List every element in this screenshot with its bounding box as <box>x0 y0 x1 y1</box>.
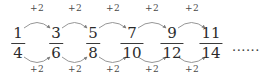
fraction-numerator: 7 <box>120 26 143 42</box>
increment-arc <box>62 23 87 29</box>
arc-increment-label: +2 <box>68 4 82 13</box>
sequence-ellipsis: ...... <box>232 40 260 53</box>
increment-arc <box>24 57 50 63</box>
arc-increment-label: +2 <box>185 4 199 13</box>
fraction-numerator: 9 <box>160 26 183 42</box>
increment-arc <box>24 23 50 29</box>
arc-increment-label: +2 <box>145 65 159 74</box>
arc-increment-label: +2 <box>106 65 120 74</box>
fraction-term: 58 <box>86 26 100 61</box>
arc-increment-label: +2 <box>185 65 199 74</box>
increment-arc <box>62 57 87 63</box>
fraction-denominator: 14 <box>199 45 222 61</box>
arc-increment-label: +2 <box>145 4 159 13</box>
fraction-denominator: 12 <box>160 45 183 61</box>
fraction-term: 1114 <box>199 26 222 61</box>
arc-increment-label: +2 <box>106 4 120 13</box>
fraction-numerator: 11 <box>199 26 222 42</box>
arc-increment-label: +2 <box>30 4 44 13</box>
fraction-denominator: 4 <box>11 45 25 61</box>
fraction-numerator: 3 <box>49 26 63 42</box>
fraction-numerator: 5 <box>86 26 100 42</box>
arc-increment-label: +2 <box>68 65 82 74</box>
fraction-sequence-diagram: 1436587109121114 +2+2+2+2+2 +2+2+2+2+2 .… <box>0 0 272 78</box>
fraction-term: 912 <box>160 26 183 61</box>
fraction-term: 14 <box>11 26 25 61</box>
fraction-denominator: 10 <box>120 45 143 61</box>
fraction-term: 36 <box>49 26 63 61</box>
arc-increment-label: +2 <box>30 65 44 74</box>
fraction-numerator: 1 <box>11 26 25 42</box>
fraction-denominator: 8 <box>86 45 100 61</box>
fraction-term: 710 <box>120 26 143 61</box>
fraction-denominator: 6 <box>49 45 63 61</box>
